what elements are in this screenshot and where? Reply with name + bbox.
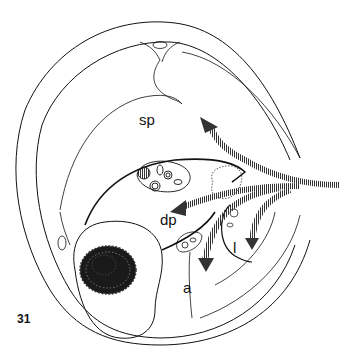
label-sp: sp xyxy=(139,112,155,127)
large-body xyxy=(74,221,163,338)
label-a: a xyxy=(183,280,191,295)
vessel-cluster xyxy=(137,161,190,192)
diagram-figure: sp dp l a 31 xyxy=(0,0,355,361)
arrow-head-l xyxy=(245,238,259,250)
outer-wall xyxy=(16,22,310,345)
label-l: l xyxy=(233,240,236,255)
arrow-to-l-shaft xyxy=(252,190,290,240)
wall-vessel xyxy=(58,236,66,250)
dark-mass xyxy=(80,246,136,294)
a-vessel-cluster xyxy=(177,232,202,318)
diagram-svg xyxy=(0,0,355,361)
figure-number: 31 xyxy=(17,312,30,326)
arrow-head-a xyxy=(198,258,214,272)
label-dp: dp xyxy=(160,212,177,227)
septum-lines xyxy=(60,42,182,211)
migration-arrows xyxy=(180,125,340,260)
arrow-to-sp-shaft xyxy=(210,125,340,185)
